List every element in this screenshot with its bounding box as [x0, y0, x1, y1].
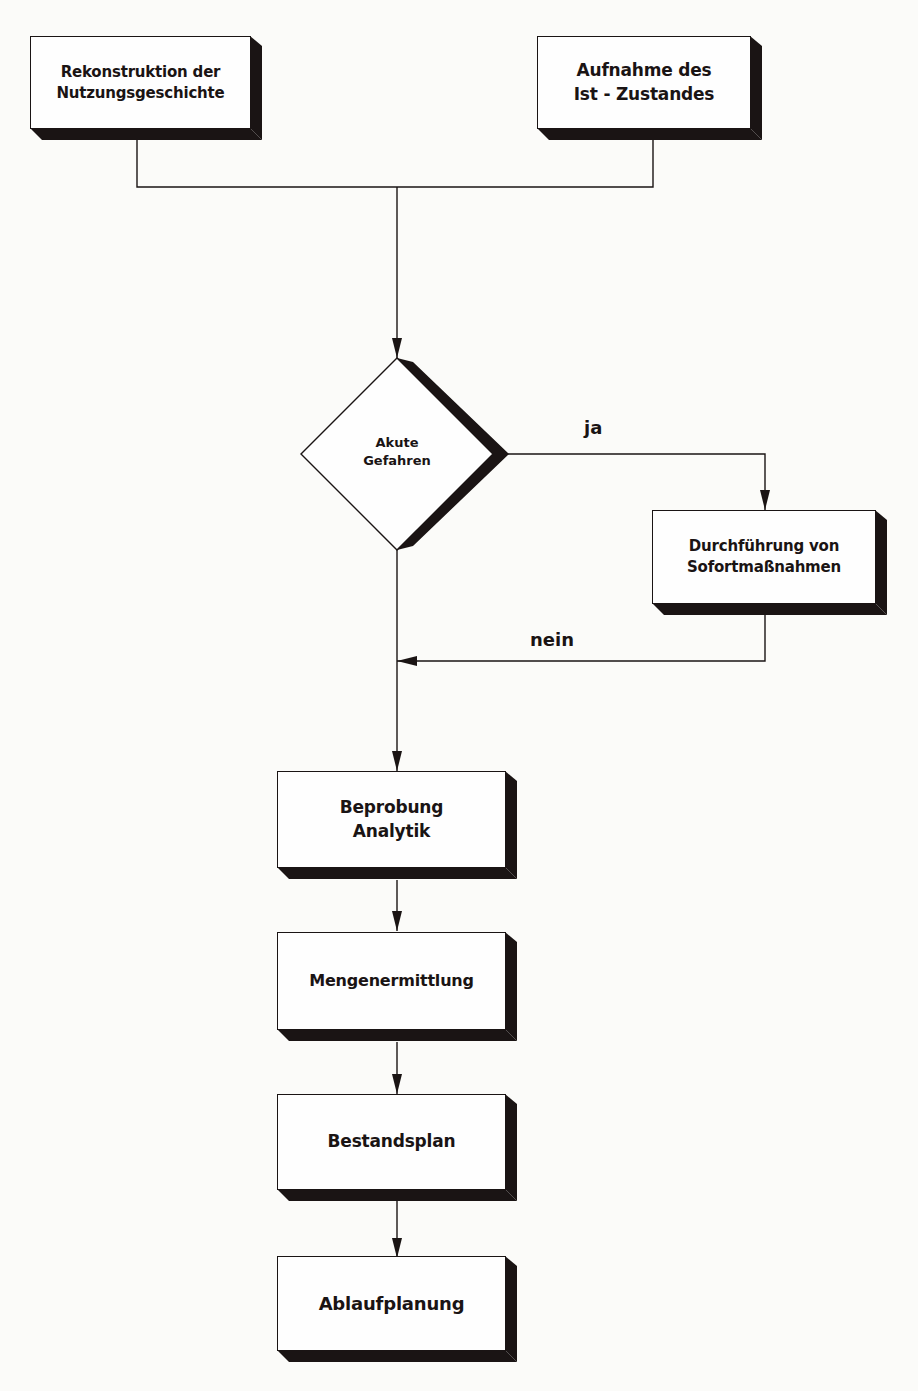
arrowhead-icon [392, 911, 402, 931]
node-schedule-label: Ablaufplanung [319, 1291, 465, 1316]
decision-line1: Akute [337, 434, 457, 452]
node-sampling-line1: Beprobung [340, 796, 443, 820]
node-immediate-measures-line2: Sofortmaßnahmen [687, 557, 841, 578]
node-quantity-label: Mengenermittlung [309, 970, 474, 992]
edge-label-yes: ja [584, 417, 602, 438]
node-sampling: Beprobung Analytik [277, 771, 506, 868]
decision-label: Akute Gefahren [337, 434, 457, 469]
decision-line2: Gefahren [337, 452, 457, 470]
node-schedule: Ablaufplanung [277, 1256, 506, 1351]
arrowhead-icon [397, 656, 417, 666]
node-immediate-measures: Durchführung von Sofortmaßnahmen [652, 510, 876, 604]
node-current-state: Aufnahme des Ist - Zustandes [537, 36, 751, 129]
node-immediate-measures-line1: Durchführung von [687, 536, 841, 557]
edge-label-no: nein [530, 629, 574, 650]
node-quantity: Mengenermittlung [277, 932, 506, 1030]
arrowhead-icon [392, 1238, 402, 1258]
node-history: Rekonstruktion der Nutzungsgeschichte [30, 36, 251, 129]
connector-back [397, 612, 765, 661]
node-current-state-line1: Aufnahme des [574, 59, 715, 83]
arrowhead-icon [392, 1074, 402, 1094]
arrowhead-icon [760, 490, 770, 510]
node-sampling-line2: Analytik [340, 820, 443, 844]
node-history-line1: Rekonstruktion der [56, 62, 224, 83]
arrowhead-icon [392, 338, 402, 358]
node-current-state-line2: Ist - Zustandes [574, 83, 715, 107]
node-inventory-plan-label: Bestandsplan [328, 1130, 456, 1154]
node-history-line2: Nutzungsgeschichte [56, 83, 224, 104]
node-inventory-plan: Bestandsplan [277, 1094, 506, 1190]
arrowhead-icon [392, 751, 402, 771]
connector-ja [505, 454, 765, 510]
